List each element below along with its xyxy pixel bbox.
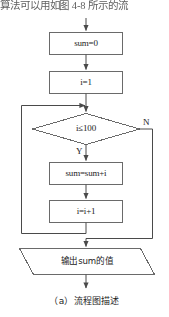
node-increment-label: i=i+1 (49, 207, 123, 216)
node-init-sum-label: sum=0 (49, 39, 123, 48)
node-condition-label: i≤100 (49, 124, 123, 133)
node-init-i-label: i=1 (49, 78, 123, 87)
branch-label-yes: Y (76, 147, 83, 156)
node-output-label: 输出sum的值 (35, 257, 139, 266)
flowchart: sum=0 i=1 i≤100 sum=sum+i i=i+1 输出sum的值 … (0, 14, 169, 289)
flowchart-diagram (0, 14, 169, 289)
branch-label-no: N (143, 118, 150, 127)
edge-no-to-output (86, 129, 153, 247)
node-accumulate-label: sum=sum+i (49, 169, 123, 178)
intro-paragraph-line: 算法可以用如图 4-8 所示的流 (0, 0, 169, 13)
figure-caption: （a）流程图描述 (0, 294, 169, 307)
